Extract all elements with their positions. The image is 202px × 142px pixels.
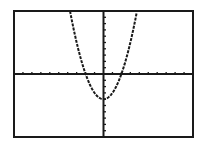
parabola-graph [0,0,202,142]
calculator-graph-screen [0,0,202,142]
